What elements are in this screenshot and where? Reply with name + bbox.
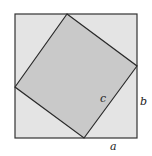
pythagorean-diagram: c b a [0, 0, 152, 156]
label-c: c [100, 92, 106, 105]
label-a: a [110, 140, 117, 153]
label-b: b [140, 95, 147, 108]
